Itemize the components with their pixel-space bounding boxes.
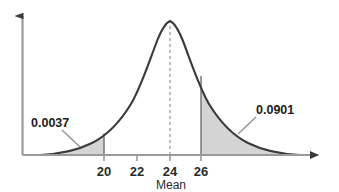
chart-canvas: 20 22 24 26 Mean 0.0037 0.0901 [0,0,339,192]
left-tail-shaded-region [52,18,104,155]
x-tick-label-26: 26 [194,164,208,179]
bell-curve-chart: 20 22 24 26 Mean 0.0037 0.0901 [0,0,339,192]
x-tick-label-22: 22 [130,164,144,179]
right-tail-annotation: 0.0901 [238,103,294,134]
left-tail-leader-line [62,130,80,147]
left-tail-annotation-label: 0.0037 [31,116,69,130]
x-tick-label-24: 24 [163,164,178,179]
left-tail-fill [52,18,104,155]
right-tail-fill [201,18,308,155]
x-tick-label-20: 20 [97,164,111,179]
right-tail-leader-line [238,117,256,134]
right-tail-shaded-region [201,18,308,155]
x-axis-title: Mean [156,178,186,192]
x-axis-tick-labels: 20 22 24 26 [97,164,208,179]
right-tail-annotation-label: 0.0901 [256,103,294,117]
left-tail-annotation: 0.0037 [31,116,80,147]
